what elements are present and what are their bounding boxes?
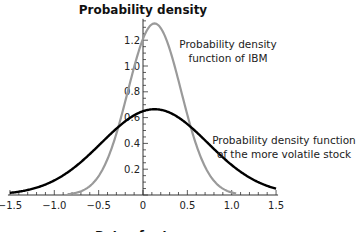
y-tick-label: 0.2 [124, 164, 140, 175]
x-tick-label: −0.5 [87, 200, 111, 211]
x-axis-label: Rate of return [95, 229, 191, 232]
x-tick-label: 0.5 [179, 200, 195, 211]
x-tick-label: −1.0 [42, 200, 66, 211]
chart-title: Probability density [79, 3, 208, 17]
annotation-volatile-line2: of the more volatile stock [217, 148, 352, 160]
annotation-volatile-line1: Probability density function [212, 134, 356, 146]
y-tick-label: 1.2 [124, 35, 140, 46]
x-tick-label: 1.0 [224, 200, 240, 211]
annotation-ibm-line1: Probability density [179, 38, 276, 50]
x-tick-label: 1.5 [268, 200, 284, 211]
x-tick-label: −1.5 [0, 200, 22, 211]
annotation-ibm-line2: function of IBM [188, 52, 267, 64]
probability-density-chart: Probability density −1.5−1.0−0.500.51.01… [0, 0, 357, 232]
y-tick-label: 0.4 [124, 138, 140, 149]
y-tick-label: 1.0 [124, 61, 140, 72]
x-tick-label: 0 [140, 200, 146, 211]
